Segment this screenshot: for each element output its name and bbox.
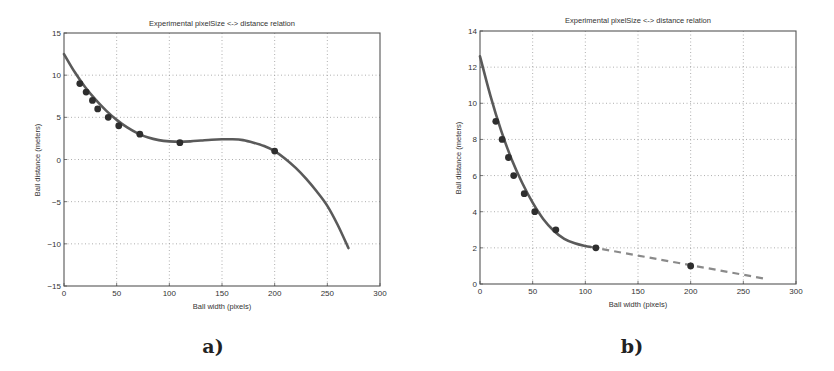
fit-curve bbox=[480, 56, 591, 247]
y-tick-label: 14 bbox=[468, 27, 477, 36]
chart-a-title: Experimental pixelSize <-> distance rela… bbox=[149, 19, 295, 28]
x-tick-label: 50 bbox=[528, 287, 537, 296]
x-tick-label: 300 bbox=[373, 289, 387, 298]
x-tick-label: 0 bbox=[478, 287, 483, 296]
data-point-marker bbox=[505, 154, 512, 161]
data-point-marker bbox=[89, 97, 96, 104]
chart-b-title: Experimental pixelSize <-> distance rela… bbox=[565, 16, 711, 25]
data-point-marker bbox=[136, 131, 143, 138]
x-tick-label: 50 bbox=[112, 289, 121, 298]
chart-a-caption: a) bbox=[202, 335, 223, 357]
y-tick-label: 5 bbox=[57, 113, 62, 122]
x-tick-label: 150 bbox=[215, 289, 229, 298]
chart-b-ylabel: Ball distance (meters) bbox=[454, 121, 463, 194]
y-tick-label: −15 bbox=[47, 282, 61, 291]
data-point-marker bbox=[592, 244, 599, 251]
x-tick-label: 0 bbox=[62, 289, 67, 298]
data-point-marker bbox=[105, 114, 112, 121]
y-tick-label: −5 bbox=[52, 198, 62, 207]
data-point-marker bbox=[531, 208, 538, 215]
y-tick-label: 2 bbox=[473, 244, 478, 253]
data-point-marker bbox=[499, 136, 506, 143]
chart-b-grid bbox=[480, 31, 796, 284]
chart-b-series bbox=[480, 56, 764, 278]
data-point-marker bbox=[83, 89, 90, 96]
y-tick-label: 0 bbox=[473, 280, 478, 289]
x-tick-label: 250 bbox=[737, 287, 751, 296]
data-point-marker bbox=[176, 139, 183, 146]
fit-curve bbox=[64, 54, 348, 248]
chart-b: 05010015020025030002468101214 Experiment… bbox=[454, 16, 803, 357]
data-point-marker bbox=[271, 148, 278, 155]
data-point-marker bbox=[510, 172, 517, 179]
y-tick-label: 12 bbox=[468, 63, 477, 72]
x-tick-label: 100 bbox=[579, 287, 593, 296]
chart-a-ylabel: Ball distance (meters) bbox=[33, 123, 42, 196]
y-tick-label: −10 bbox=[47, 240, 61, 249]
chart-a-grid bbox=[64, 33, 380, 286]
chart-a-xlabel: Ball width (pixels) bbox=[193, 302, 252, 311]
data-point-marker bbox=[94, 106, 101, 113]
data-point-marker bbox=[552, 226, 559, 233]
chart-b-ticks: 05010015020025030002468101214 bbox=[468, 27, 803, 296]
data-point-marker bbox=[521, 190, 528, 197]
y-tick-label: 0 bbox=[57, 156, 62, 165]
x-tick-label: 200 bbox=[268, 289, 282, 298]
y-tick-label: 10 bbox=[468, 99, 477, 108]
data-point-marker bbox=[492, 118, 499, 125]
figure-canvas: 050100150200250300−15−10−5051015 Experim… bbox=[0, 0, 834, 371]
chart-a: 050100150200250300−15−10−5051015 Experim… bbox=[33, 19, 387, 357]
chart-b-xlabel: Ball width (pixels) bbox=[609, 300, 668, 309]
data-point-marker bbox=[76, 80, 83, 87]
extrapolation-line bbox=[591, 247, 765, 279]
x-tick-label: 250 bbox=[321, 289, 335, 298]
data-point-marker bbox=[687, 263, 694, 270]
chart-a-ticks: 050100150200250300−15−10−5051015 bbox=[47, 29, 387, 298]
data-point-marker bbox=[115, 122, 122, 129]
chart-b-caption: b) bbox=[621, 335, 643, 357]
x-tick-label: 150 bbox=[631, 287, 645, 296]
y-tick-label: 6 bbox=[473, 172, 478, 181]
y-tick-label: 10 bbox=[52, 71, 61, 80]
y-tick-label: 15 bbox=[52, 29, 61, 38]
chart-a-series bbox=[64, 54, 348, 248]
x-tick-label: 300 bbox=[789, 287, 803, 296]
y-tick-label: 4 bbox=[473, 208, 478, 217]
y-tick-label: 8 bbox=[473, 135, 478, 144]
x-tick-label: 100 bbox=[163, 289, 177, 298]
x-tick-label: 200 bbox=[684, 287, 698, 296]
